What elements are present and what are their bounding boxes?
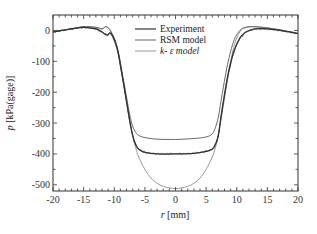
legend-label-rsm: RSM model [160,35,207,45]
y-tick-label: -400 [32,148,50,159]
x-tick-label: 20 [293,194,303,205]
x-tick-label: -15 [77,194,90,205]
legend: Experiment RSM model k- ε model [135,24,207,56]
y-tick-label: -100 [32,56,50,67]
legend-label-experiment: Experiment [160,24,205,34]
x-tick-label: 5 [204,194,209,205]
legend-label-k-epsilon: k- ε model [160,46,199,56]
x-tick-label: 0 [173,194,178,205]
x-tick-label: 15 [262,194,272,205]
x-tick-label: -10 [108,194,121,205]
y-tick-label: -200 [32,87,50,98]
x-tick-label: -5 [141,194,149,205]
x-tick-label: -20 [46,194,59,205]
pressure-profile-chart: -20-15-10-505101520 0-100-200-300-400-50… [0,0,317,234]
x-axis-label: r [mm] [161,209,190,220]
y-tick-label: -500 [32,179,50,190]
y-tick-label: -300 [32,118,50,129]
x-tick-label: 10 [232,194,242,205]
y-tick-label: 0 [45,25,50,36]
y-axis-label: p [kPa(gage)] [4,76,16,132]
